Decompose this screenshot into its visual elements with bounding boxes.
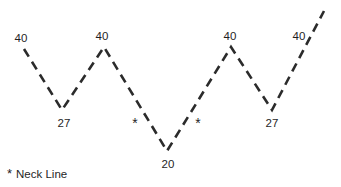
point-label-40-start: 40 [15,33,28,45]
price-zigzag-line [24,11,324,151]
chart-legend: *Neck Line [7,166,67,182]
neck-line-star-left-icon: * [132,116,137,130]
neck-line-star-right-icon: * [195,116,200,130]
point-label-40-peak2: 40 [224,31,237,43]
legend-label-neck-line: Neck Line [16,168,67,180]
point-label-40-peak1: 40 [96,31,109,43]
point-label-20-bottom: 20 [162,159,175,171]
point-label-27-second: 27 [266,118,279,130]
legend-star-icon: * [7,166,12,181]
point-label-27-first: 27 [58,118,71,130]
point-label-40-end: 40 [293,31,306,43]
chart-canvas: 40 27 40 20 40 27 40 * * *Neck Line [0,0,341,187]
